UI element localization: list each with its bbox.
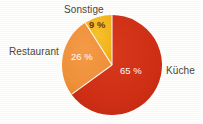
pie-value-kueche: 65 % (120, 65, 142, 76)
pie-label-sonstige: Sonstige (64, 4, 104, 15)
pie-label-restaurant: Restaurant (9, 46, 59, 57)
pie-value-restaurant: 26 % (71, 51, 93, 62)
pie-label-kueche: Küche (166, 65, 195, 76)
pie-value-sonstige: 9 % (89, 19, 105, 30)
pie-chart-figure: Sonstige Restaurant Küche 65 % 26 % 9 % (0, 0, 203, 124)
